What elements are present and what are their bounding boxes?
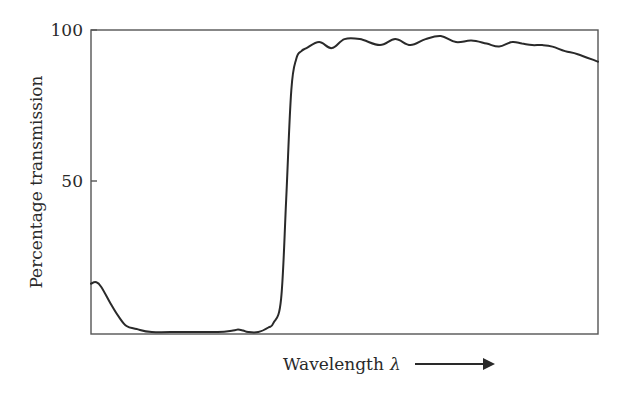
lambda-symbol: λ (390, 354, 401, 374)
right-arrow-icon (415, 357, 495, 371)
y-axis-label: Percentage transmission (26, 75, 46, 288)
x-axis-label-text: Wavelength (283, 354, 384, 374)
plot-frame (91, 30, 598, 334)
chart (0, 0, 620, 395)
transmission-curve (91, 36, 598, 333)
x-axis-label: Wavelength λ (283, 354, 495, 374)
y-tick-label-100: 100 (33, 21, 83, 39)
